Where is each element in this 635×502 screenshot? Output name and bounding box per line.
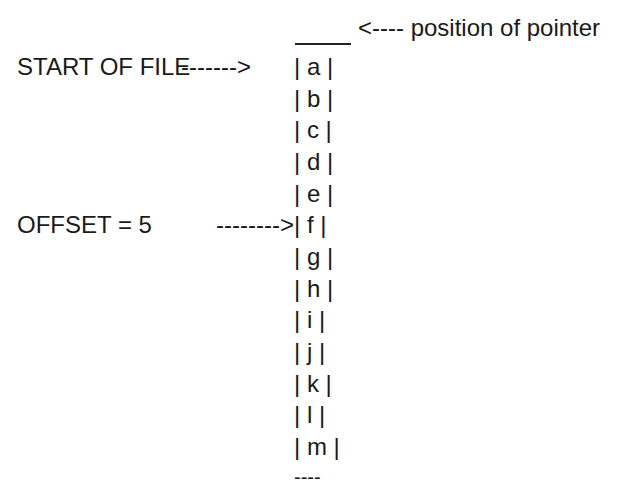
pointer-label: <---- position of pointer	[358, 14, 600, 42]
offset-arrow: -------->	[216, 211, 294, 239]
file-cell-l: | l |	[294, 401, 325, 429]
file-cell-e: | e |	[294, 180, 333, 208]
start-arrow: ------->	[181, 53, 251, 81]
end-of-file-marker: ----	[294, 463, 321, 491]
file-cell-f: | f |	[294, 211, 326, 239]
offset-label: OFFSET = 5	[17, 211, 152, 239]
file-cell-j: | j |	[294, 338, 325, 366]
file-cell-a: | a |	[294, 53, 333, 81]
file-cell-i: | i |	[294, 306, 325, 334]
file-cell-k: | k |	[294, 370, 332, 398]
file-cell-h: | h |	[294, 275, 333, 303]
file-cell-c: | c |	[294, 116, 332, 144]
file-cell-m: | m |	[294, 433, 340, 461]
file-cell-d: | d |	[294, 148, 333, 176]
file-cell-g: | g |	[294, 243, 333, 271]
file-cell-b: | b |	[294, 85, 333, 113]
pointer-position-line	[295, 43, 351, 45]
start-of-file-label: START OF FILE	[17, 53, 190, 81]
